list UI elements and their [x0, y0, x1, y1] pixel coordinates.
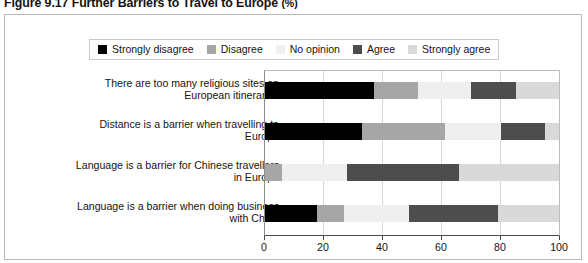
category-label-2-line1: Language is a barrier for Chinese travel…: [64, 159, 279, 171]
bar-segment-strongly-agree[interactable]: [545, 123, 560, 140]
legend-item-disagree[interactable]: Disagree: [207, 44, 263, 55]
axis-tick-80: [500, 236, 501, 240]
legend-swatch-strongly-disagree: [98, 45, 107, 54]
category-label-2: Language is a barrier for Chinese travel…: [64, 159, 279, 184]
legend-item-strongly-agree[interactable]: Strongly agree: [408, 44, 490, 55]
legend-label-strongly-disagree: Strongly disagree: [112, 44, 194, 55]
legend-swatch-agree: [353, 45, 362, 54]
legend-label-strongly-agree: Strongly agree: [422, 44, 490, 55]
category-label-1-line2: Europe: [64, 130, 279, 142]
legend-swatch-strongly-agree: [408, 45, 417, 54]
figure-number: Figure 9.17: [4, 0, 68, 10]
bar-segment-agree[interactable]: [347, 164, 459, 181]
bar-segment-no-opinion[interactable]: [445, 123, 501, 140]
bar-segment-no-opinion[interactable]: [344, 205, 409, 222]
bar-segment-strongly-agree[interactable]: [498, 205, 560, 222]
legend-item-no-opinion[interactable]: No opinion: [276, 44, 340, 55]
legend-label-disagree: Disagree: [221, 44, 263, 55]
bar-segment-disagree[interactable]: [374, 82, 418, 99]
category-label-0-line2: European itineraries: [64, 89, 279, 101]
axis-tick-0: [264, 236, 265, 240]
axis-tick-40: [382, 236, 383, 240]
axis-tick-label-40: 40: [376, 241, 388, 253]
bar-segment-no-opinion[interactable]: [418, 82, 471, 99]
category-label-2-line2: in Europe: [64, 171, 279, 183]
bar-row-1[interactable]: [264, 123, 560, 140]
bar-segment-disagree[interactable]: [362, 123, 445, 140]
category-label-3-line1: Language is a barrier when doing busines…: [64, 200, 279, 212]
bar-segment-disagree[interactable]: [317, 205, 344, 222]
bar-segment-disagree[interactable]: [264, 164, 282, 181]
bar-segment-agree[interactable]: [501, 123, 545, 140]
category-label-3-line2: with China: [64, 212, 279, 224]
category-label-0: There are too many religious sites on Eu…: [64, 77, 279, 102]
legend-label-no-opinion: No opinion: [290, 44, 340, 55]
bar-segment-strongly-disagree[interactable]: [264, 82, 374, 99]
axis-tick-label-20: 20: [317, 241, 329, 253]
axis-tick-label-80: 80: [494, 241, 506, 253]
bar-segment-agree[interactable]: [471, 82, 515, 99]
axis-tick-100: [559, 236, 560, 240]
axis-tick-label-100: 100: [550, 241, 568, 253]
category-label-0-line1: There are too many religious sites on: [64, 77, 279, 89]
bar-segment-no-opinion[interactable]: [282, 164, 347, 181]
figure-title-unit: (%): [281, 0, 297, 9]
legend-swatch-disagree: [207, 45, 216, 54]
bar-segment-strongly-disagree[interactable]: [264, 205, 317, 222]
page-title: Figure 9.17 Further Barriers to Travel t…: [4, 0, 298, 10]
axis-tick-label-60: 60: [435, 241, 447, 253]
plot-area: [264, 70, 560, 236]
bar-segment-strongly-disagree[interactable]: [264, 123, 362, 140]
figure-title-text: Further Barriers to Travel to Europe: [72, 0, 278, 10]
bar-row-3[interactable]: [264, 205, 560, 222]
legend-item-agree[interactable]: Agree: [353, 44, 395, 55]
legend-label-agree: Agree: [367, 44, 395, 55]
category-label-1-line1: Distance is a barrier when travelling to: [64, 118, 279, 130]
bar-segment-agree[interactable]: [409, 205, 498, 222]
bar-row-0[interactable]: [264, 82, 560, 99]
axis-tick-20: [323, 236, 324, 240]
bar-row-2[interactable]: [264, 164, 560, 181]
legend-swatch-no-opinion: [276, 45, 285, 54]
legend-item-strongly-disagree[interactable]: Strongly disagree: [98, 44, 194, 55]
axis-tick-label-0: 0: [261, 241, 267, 253]
axis-tick-60: [441, 236, 442, 240]
bar-segment-strongly-agree[interactable]: [459, 164, 560, 181]
chart-legend: Strongly disagree Disagree No opinion Ag…: [89, 39, 499, 60]
category-label-3: Language is a barrier when doing busines…: [64, 200, 279, 225]
bar-segment-strongly-agree[interactable]: [516, 82, 560, 99]
category-label-1: Distance is a barrier when travelling to…: [64, 118, 279, 143]
x-axis: 0 20 40 60 80 100: [264, 236, 560, 258]
